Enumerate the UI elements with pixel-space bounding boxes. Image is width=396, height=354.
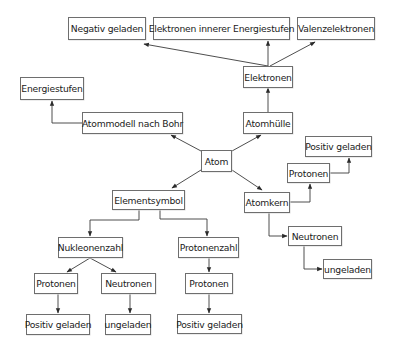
node-positiv-geladen-nukleonenzahl: Positiv geladen (26, 314, 90, 335)
edge-elementsymbol-protonenzahl (160, 210, 207, 236)
edge-elementsymbol-nukleonenzahl (90, 210, 139, 236)
edge-neutronen-ungeladen (304, 246, 322, 269)
edge-atomkern-protonen (290, 184, 310, 202)
edge-atom-elementsymbol (172, 170, 201, 188)
edge-protonen-positiv (330, 158, 349, 173)
edge-bohr-energiestufen (52, 101, 82, 123)
node-positiv-geladen-kern: Positiv geladen (305, 136, 372, 157)
concept-map: Negativ geladen Elektronen innerer Energ… (0, 0, 396, 354)
node-positiv-geladen-protonenzahl: Positiv geladen (177, 314, 242, 334)
node-nukleonenzahl: Nukleonenzahl (58, 237, 123, 258)
node-neutronen-nukleonenzahl: Neutronen (101, 273, 156, 294)
edge-nukleonen-neutronen (90, 258, 116, 272)
edge-elektronen-valenz (270, 42, 315, 66)
edge-atomkern-neutronen (269, 213, 287, 236)
node-atomkern: Atomkern (244, 192, 290, 213)
node-protonenzahl: Protonenzahl (178, 237, 239, 258)
node-protonen-kern: Protonen (287, 163, 330, 183)
edge-atom-atomhuelle (232, 135, 261, 151)
node-negativ-geladen: Negativ geladen (68, 17, 146, 40)
node-protonen-nukleonenzahl: Protonen (34, 273, 78, 294)
edge-nukleonen-protonen (67, 258, 90, 272)
node-valenzelektronen: Valenzelektronen (297, 17, 375, 40)
edge-atom-bohr (171, 135, 201, 151)
node-protonen-protonenzahl: Protonen (185, 273, 233, 294)
node-energiestufen: Energiestufen (20, 77, 84, 100)
node-elektronen-innerer-energiestufen: Elektronen innerer Energiestufen (153, 17, 290, 40)
node-atom: Atom (201, 150, 232, 172)
node-ungeladen-kern: ungeladen (323, 259, 372, 279)
node-elektronen: Elektronen (243, 66, 293, 88)
node-ungeladen-nukleonenzahl: ungeladen (105, 314, 151, 335)
edge-atom-atomkern (232, 170, 262, 190)
node-atommodell-nach-bohr: Atommodell nach Bohr (82, 112, 183, 134)
edge-elektronen-negativ (144, 44, 268, 66)
node-atomhuelle: Atomhülle (243, 112, 293, 134)
node-elementsymbol: Elementsymbol (112, 190, 185, 210)
node-neutronen-kern: Neutronen (288, 226, 342, 246)
connector-lines (0, 0, 396, 354)
